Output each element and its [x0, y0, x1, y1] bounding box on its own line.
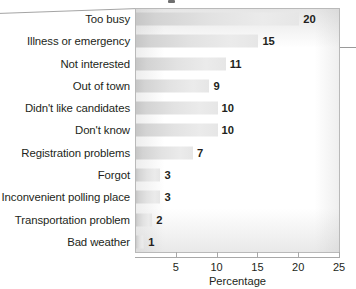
bar: [136, 191, 160, 204]
bar: [136, 102, 218, 115]
bar-row: Transportation problem2: [0, 208, 356, 230]
bar: [136, 79, 209, 92]
x-tick-label: 10: [210, 261, 222, 273]
x-tick: [257, 252, 258, 258]
bar-row: Inconvenient polling place3: [0, 186, 356, 208]
bar-row: Registration problems7: [0, 142, 356, 164]
category-label: Bad weather: [67, 236, 130, 248]
category-label: Registration problems: [21, 147, 130, 159]
category-label: Transportation problem: [15, 214, 130, 226]
x-tick: [339, 252, 340, 258]
bar-value-label: 9: [213, 80, 219, 92]
bar: [136, 124, 218, 137]
bar-value-label: 3: [164, 191, 170, 203]
bar-value-label: 11: [230, 58, 242, 70]
bar-row: Didn't like candidates10: [0, 97, 356, 119]
bar-value-label: 7: [197, 147, 203, 159]
category-label: Illness or emergency: [27, 35, 130, 47]
bar-value-label: 10: [222, 102, 234, 114]
category-label: Not interested: [60, 58, 130, 70]
bar-value-label: 15: [262, 35, 274, 47]
bar-row: Illness or emergency15: [0, 30, 356, 52]
bar-row: Bad weather1: [0, 231, 356, 253]
x-tick-label: 5: [173, 261, 179, 273]
bar-row: Too busy20: [0, 8, 356, 30]
bar: [136, 169, 160, 182]
category-label: Inconvenient polling place: [2, 191, 131, 203]
bar: [136, 35, 258, 48]
category-label: Out of town: [73, 80, 130, 92]
category-label: Forgot: [98, 169, 130, 181]
category-label: Too busy: [85, 13, 130, 25]
x-tick-label: 15: [251, 261, 263, 273]
bar-row: Don't know10: [0, 119, 356, 141]
x-tick-label: 25: [333, 261, 345, 273]
bar-value-label: 20: [303, 13, 315, 25]
x-axis-title: Percentage: [135, 275, 340, 287]
bar: [136, 13, 299, 26]
x-tick: [217, 252, 218, 258]
cropped-title-fragment: [168, 0, 175, 3]
bar-row: Not interested11: [0, 53, 356, 75]
bar: [136, 146, 193, 159]
x-axis-line: [135, 257, 340, 258]
bar-chart: Too busy20Illness or emergency15Not inte…: [0, 0, 356, 289]
bar: [136, 213, 152, 226]
bar-row: Forgot3: [0, 164, 356, 186]
x-tick: [298, 252, 299, 258]
bar-rows: Too busy20Illness or emergency15Not inte…: [0, 8, 356, 253]
bar-value-label: 2: [156, 214, 162, 226]
bar-value-label: 1: [148, 236, 154, 248]
bar-value-label: 10: [222, 124, 234, 136]
bar-row: Out of town9: [0, 75, 356, 97]
bar: [136, 57, 226, 70]
bar-value-label: 3: [164, 169, 170, 181]
x-tick-label: 20: [292, 261, 304, 273]
category-label: Didn't like candidates: [25, 102, 130, 114]
category-label: Don't know: [75, 124, 130, 136]
bar: [136, 235, 144, 248]
x-tick: [176, 252, 177, 258]
